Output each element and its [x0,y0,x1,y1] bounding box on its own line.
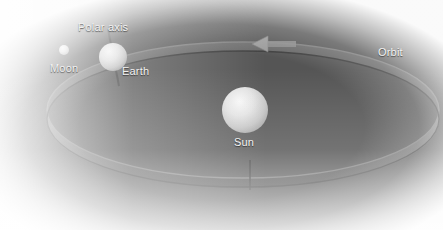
bottom-glow-overlay [0,0,443,230]
orbit-diagram: Polar axis Moon Earth Sun Orbit [0,0,443,230]
diagram-canvas [0,0,443,230]
